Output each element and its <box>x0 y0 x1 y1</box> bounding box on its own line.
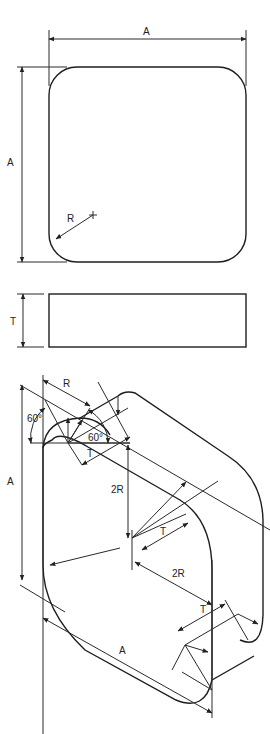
iso-angle-left-label: 60° <box>27 413 42 424</box>
radius-leader <box>238 614 258 624</box>
top-view: A A R <box>7 26 246 262</box>
iso-thickness-mid-label: T <box>160 526 166 537</box>
iso-edge <box>212 656 254 680</box>
construction-line <box>68 443 82 465</box>
top-view-outline <box>49 67 246 262</box>
iso-back-face <box>118 392 263 642</box>
top-height-label: A <box>7 157 14 168</box>
iso-thickness-top-label: T <box>87 448 93 459</box>
construction-line <box>98 382 128 437</box>
iso-angle-right-label: 60° <box>88 432 103 443</box>
technical-drawing: A A R T <box>0 0 270 734</box>
radius-leader <box>132 482 186 538</box>
iso-2r-vertical-label: 2R <box>111 484 124 495</box>
construction-line <box>68 408 90 443</box>
iso-length-label: A <box>119 645 126 656</box>
top-radius-label: R <box>67 213 74 224</box>
iso-radius-label: R <box>63 378 70 389</box>
radius-leader <box>132 514 186 538</box>
iso-thickness-bottom-label: T <box>200 604 206 615</box>
side-view-outline <box>49 294 246 347</box>
radius-leader <box>50 548 120 565</box>
construction-line <box>172 645 185 670</box>
side-view: T <box>10 294 246 347</box>
radius-leader <box>56 215 93 239</box>
top-width-label: A <box>143 26 150 37</box>
construction-line <box>20 385 270 530</box>
isometric-view: 60° 60° R T A 2R T 2R T <box>7 375 270 734</box>
iso-2r-diagonal-label: 2R <box>172 568 185 579</box>
construction-line <box>182 672 212 690</box>
side-thickness-label: T <box>10 316 16 327</box>
iso-height-label: A <box>7 476 14 487</box>
iso-length-dimension <box>43 618 212 713</box>
